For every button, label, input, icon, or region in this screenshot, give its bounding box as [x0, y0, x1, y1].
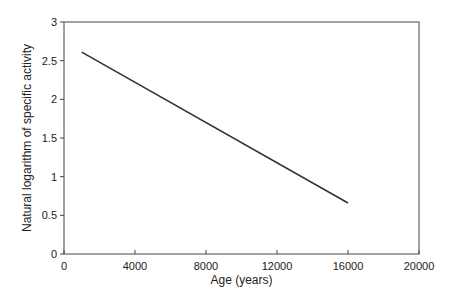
- x-tick-label: 12000: [262, 260, 293, 272]
- data-line: [82, 52, 348, 203]
- x-tick-label: 4000: [123, 260, 147, 272]
- x-tick-label: 0: [61, 260, 67, 272]
- x-axis-label: Age (years): [210, 273, 272, 287]
- y-tick-label: 3: [51, 16, 57, 28]
- x-tick-label: 8000: [194, 260, 218, 272]
- plot-frame: [64, 22, 419, 254]
- y-tick-label: 1.5: [42, 132, 57, 144]
- y-tick-label: 0.5: [42, 209, 57, 221]
- y-tick-label: 2: [51, 93, 57, 105]
- line-chart: 00.511.522.53 040008000120001600020000 A…: [0, 0, 459, 303]
- x-axis-ticks: 040008000120001600020000: [61, 250, 434, 272]
- x-tick-label: 20000: [404, 260, 435, 272]
- y-tick-label: 2.5: [42, 55, 57, 67]
- y-axis-label: Natural logarithm of specific activity: [20, 44, 34, 232]
- y-tick-label: 0: [51, 248, 57, 260]
- y-tick-label: 1: [51, 171, 57, 183]
- y-axis-ticks: 00.511.522.53: [42, 16, 64, 260]
- x-tick-label: 16000: [333, 260, 364, 272]
